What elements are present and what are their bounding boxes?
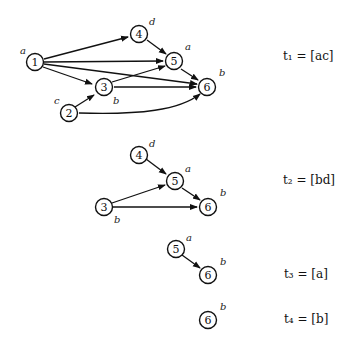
svg-text:4: 4 [136, 149, 143, 162]
node-label: a [185, 41, 191, 52]
edge-5-6 [182, 188, 200, 200]
edge-1-4 [44, 37, 128, 59]
node-1: 1 [27, 54, 44, 71]
svg-text:6: 6 [205, 201, 212, 214]
diagram: 1 2 3 4 5 6 a c b d a b t₁ = [ac] 4 5 3 … [0, 0, 347, 350]
graph-1: 1 2 3 4 5 6 a c b d a b t₁ = [ac] [20, 16, 334, 122]
node-6: 6 [200, 199, 217, 216]
caption: t₂ = [bd] [283, 173, 335, 187]
node-label: a [185, 163, 191, 174]
svg-text:3: 3 [101, 201, 108, 214]
graph-2: 4 5 3 6 d a b b t₂ = [bd] [96, 138, 336, 225]
edge-3-5 [112, 185, 165, 203]
node-3: 3 [96, 79, 113, 96]
node-label: b [220, 187, 226, 198]
node-4: 4 [131, 147, 148, 164]
edge-5-6 [182, 255, 200, 268]
svg-text:1: 1 [32, 56, 39, 69]
node-6: 6 [200, 312, 217, 329]
edge-5-6 [181, 69, 198, 80]
svg-text:6: 6 [205, 269, 212, 282]
node-6: 6 [199, 79, 216, 96]
node-label: b [220, 301, 226, 312]
node-label: b [220, 256, 226, 267]
node-label: b [113, 95, 119, 106]
node-label: d [149, 138, 155, 149]
caption: t₃ = [a] [284, 267, 328, 281]
node-label: a [20, 45, 26, 56]
svg-text:3: 3 [101, 81, 108, 94]
node-3: 3 [96, 199, 113, 216]
edge-4-5 [147, 40, 166, 54]
edge-2-6 [79, 94, 200, 113]
svg-text:5: 5 [173, 243, 180, 256]
graph-3: 5 6 a b t₃ = [a] [168, 232, 328, 284]
svg-text:5: 5 [171, 55, 178, 68]
node-6: 6 [200, 267, 217, 284]
node-label: a [186, 232, 192, 243]
node-label: c [54, 95, 60, 106]
svg-text:6: 6 [204, 81, 211, 94]
caption: t₁ = [ac] [283, 49, 334, 63]
node-label: b [114, 214, 120, 225]
svg-text:2: 2 [66, 107, 73, 120]
edge-1-5 [44, 61, 163, 62]
svg-text:4: 4 [136, 28, 143, 41]
svg-text:6: 6 [205, 314, 212, 327]
node-5: 5 [168, 241, 185, 258]
caption: t₄ = [b] [284, 312, 328, 326]
node-label: b [219, 67, 225, 78]
edge-4-5 [146, 159, 166, 174]
edge-2-3 [75, 95, 94, 107]
node-5: 5 [167, 173, 184, 190]
svg-text:5: 5 [172, 175, 179, 188]
node-label: d [149, 16, 155, 27]
node-5: 5 [166, 53, 183, 70]
node-2: 2 [61, 105, 78, 122]
node-4: 4 [131, 26, 148, 43]
graph-4: 6 b t₄ = [b] [200, 301, 329, 329]
